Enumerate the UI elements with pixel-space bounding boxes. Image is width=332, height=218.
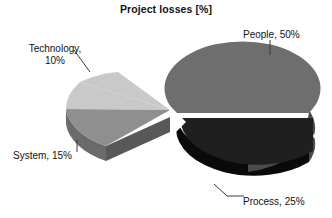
data-label-technology: Technology, 10%: [18, 43, 92, 67]
data-label-process: Process, 25%: [243, 196, 305, 208]
data-label-system: System, 15%: [13, 150, 72, 162]
slice-top-people: [165, 41, 321, 113]
pie-chart-figure: Project losses [%] People, 50% P: [0, 0, 332, 218]
leader-line-process: [214, 184, 244, 196]
data-label-technology-line1: Technology,: [18, 43, 92, 55]
data-label-people: People, 50%: [243, 29, 300, 41]
data-label-technology-line2: 10%: [18, 55, 92, 67]
